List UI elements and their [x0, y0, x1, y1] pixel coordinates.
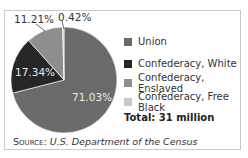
- swatch-confederacy-enslaved: [124, 79, 132, 87]
- label-free-black-pct: 0.42%: [58, 12, 91, 23]
- legend-label-confederacy-free-black: Confederacy, Free Black: [138, 91, 248, 113]
- legend-item-confederacy-enslaved: Confederacy, Enslaved: [124, 73, 248, 92]
- swatch-union: [124, 38, 132, 46]
- legend: Union Confederacy, White Confederacy, En…: [124, 32, 248, 123]
- swatch-confederacy-white: [124, 60, 132, 68]
- source-note: Source: U.S. Department of the Census: [13, 136, 198, 147]
- label-white-pct: 17.34%: [15, 67, 55, 78]
- swatch-confederacy-free-black: [124, 98, 132, 106]
- label-enslaved-pct: 11.21%: [14, 14, 54, 25]
- legend-item-confederacy-white: Confederacy, White: [124, 54, 248, 73]
- label-union-pct: 71.03%: [72, 92, 112, 103]
- source-prefix: Source:: [13, 136, 47, 147]
- total-label: Total: 31 million: [124, 112, 248, 123]
- legend-item-union: Union: [124, 32, 248, 51]
- legend-label-confederacy-white: Confederacy, White: [138, 58, 237, 69]
- leader-line-11-21: [36, 24, 45, 31]
- source-text: U.S. Department of the Census: [50, 136, 198, 147]
- legend-label-union: Union: [138, 36, 167, 47]
- legend-item-confederacy-free-black: Confederacy, Free Black: [124, 92, 248, 111]
